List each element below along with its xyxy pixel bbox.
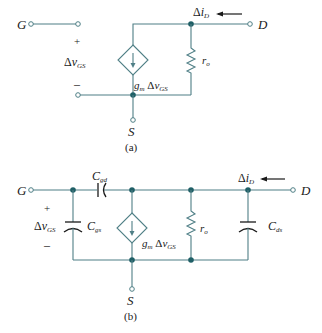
caption-a: (a): [125, 141, 138, 154]
source-label-a: S: [128, 124, 135, 139]
gate-terminal-b: [29, 188, 34, 193]
cds-label: Cds: [268, 219, 283, 234]
source-label-b: S: [127, 293, 134, 308]
caption-b: (b): [124, 310, 137, 323]
circuit-a: G + ΔvGS – D ΔiD gm ΔvGS ro S (a): [17, 5, 268, 154]
cgd-label: Cgd: [92, 169, 108, 184]
arrow-head-icon: [216, 12, 223, 17]
circuit-b: G D Cgd ΔiD Cgs + ΔvGS – gm ΔvGS: [17, 169, 311, 323]
ro-label-b: ro: [200, 222, 208, 236]
resistor-ro-b: [187, 190, 195, 260]
drain-terminal-a: [248, 22, 253, 27]
resistor-ro-a: [187, 24, 195, 95]
vgs-plus-b: +: [44, 202, 50, 214]
source-terminal-a: [131, 118, 136, 123]
gate-label-a: G: [17, 17, 27, 32]
ro-bottom-node-b: [188, 257, 194, 263]
gate-terminal-a: [29, 22, 34, 27]
vgs-minus-a: –: [73, 77, 81, 91]
vgs-minus-b: –: [43, 238, 51, 252]
mosfet-small-signal-figure: G + ΔvGS – D ΔiD gm ΔvGS ro S (a): [0, 0, 322, 333]
drain-label-b: D: [300, 183, 311, 198]
vgs-plus-a: +: [74, 35, 80, 47]
cgs-label: Cgs: [87, 219, 102, 234]
ro-label-a: ro: [202, 54, 210, 68]
vgs-label-a: ΔvGS: [64, 55, 86, 70]
source-terminal-b: [130, 287, 135, 292]
drain-terminal-b: [291, 188, 296, 193]
arrow-head-icon: [260, 177, 267, 182]
gate-return-terminal-a: [76, 93, 81, 98]
gate-open-terminal-a: [76, 22, 81, 27]
gm-label-b: gm ΔvGS: [142, 237, 176, 251]
drain-label-a: D: [257, 17, 268, 32]
current-label-b: ΔiD: [238, 171, 254, 186]
vgs-label-b: ΔvGS: [34, 219, 56, 234]
current-label-a: ΔiD: [193, 5, 209, 20]
gate-label-b: G: [17, 183, 27, 198]
gm-label-a: gm ΔvGS: [134, 79, 168, 93]
